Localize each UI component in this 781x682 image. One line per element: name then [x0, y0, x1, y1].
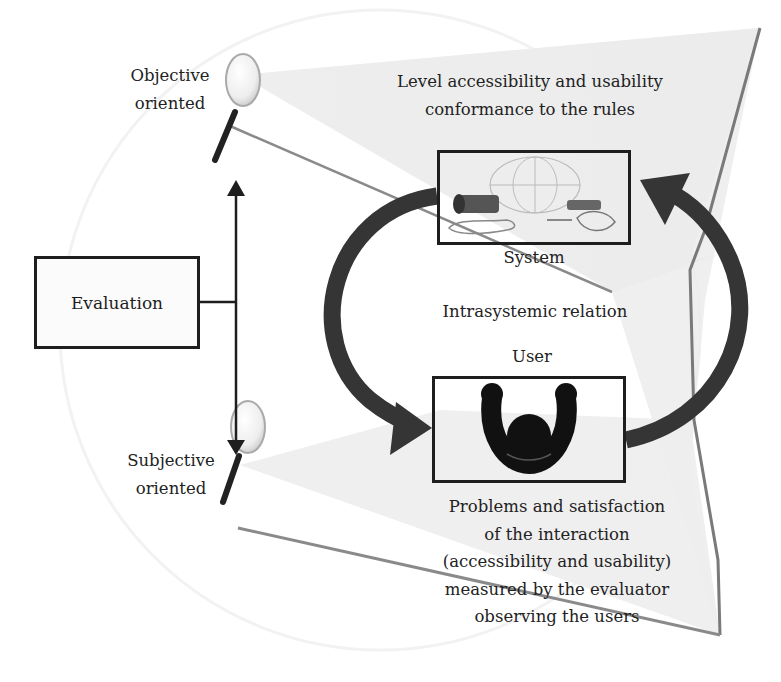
bottom-annotation-line4: measured by the evaluator	[402, 576, 712, 604]
intrasystemic-relation-label: Intrasystemic relation	[430, 298, 640, 326]
subjective-label-line1: Subjective	[118, 447, 224, 475]
user-label: User	[492, 343, 572, 371]
top-magnifier-icon	[215, 54, 260, 160]
bottom-magnifier-icon	[223, 401, 265, 502]
bottom-annotation-line5: observing the users	[402, 603, 712, 631]
bottom-annotation: Problems and satisfaction of the interac…	[402, 493, 712, 631]
top-annotation: Level accessibility and usability confor…	[380, 68, 680, 124]
top-annotation-line1: Level accessibility and usability	[380, 68, 680, 96]
objective-label-line2: oriented	[120, 90, 220, 118]
bottom-annotation-line3: (accessibility and usability)	[402, 548, 712, 576]
bottom-annotation-line1: Problems and satisfaction	[402, 493, 712, 521]
subjective-label-line2: oriented	[118, 475, 224, 503]
evaluation-label: Evaluation	[71, 293, 163, 313]
bottom-annotation-line2: of the interaction	[402, 521, 712, 549]
system-box	[437, 150, 631, 245]
evaluation-box: Evaluation	[34, 256, 200, 349]
subjective-oriented-label: Subjective oriented	[118, 447, 224, 503]
evaluation-diagram: Objective oriented Subjective oriented E…	[0, 0, 781, 682]
user-box	[432, 376, 626, 483]
system-label: System	[484, 244, 584, 272]
objective-oriented-label: Objective oriented	[120, 62, 220, 118]
objective-label-line1: Objective	[120, 62, 220, 90]
top-annotation-line2: conformance to the rules	[380, 96, 680, 124]
